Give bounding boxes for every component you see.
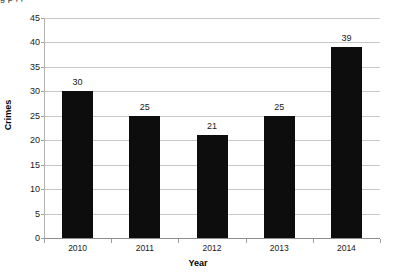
bar[interactable] (129, 116, 160, 238)
x-tick-mark (44, 239, 45, 243)
bar-value-label: 39 (326, 34, 366, 43)
gridline (44, 18, 380, 19)
x-axis-line (44, 238, 380, 239)
y-tick-label: 45 (6, 14, 40, 23)
y-tick-label: 10 (6, 185, 40, 194)
y-tick-mark (41, 165, 44, 166)
bar-value-label: 25 (125, 103, 165, 112)
bar-value-label: 25 (259, 103, 299, 112)
y-axis-title: Crimes (3, 91, 13, 139)
x-tick-mark (380, 239, 381, 243)
y-tick-label: 0 (6, 234, 40, 243)
bar[interactable] (331, 47, 362, 238)
x-tick-label: 2012 (187, 243, 237, 253)
y-tick-mark (41, 214, 44, 215)
y-tick-mark (41, 238, 44, 239)
bar-value-label: 30 (58, 78, 98, 87)
bar-chart: 454035302520151050 Crimes 3025212539 201… (0, 0, 396, 277)
y-tick-mark (41, 116, 44, 117)
y-tick-label: 15 (6, 161, 40, 170)
y-tick-mark (41, 189, 44, 190)
bar[interactable] (197, 135, 228, 238)
y-tick-label: 35 (6, 63, 40, 72)
x-tick-label: 2011 (120, 243, 170, 253)
y-tick-mark (41, 18, 44, 19)
x-tick-mark (111, 239, 112, 243)
x-tick-label: 2013 (254, 243, 304, 253)
y-tick-mark (41, 42, 44, 43)
x-tick-mark (246, 239, 247, 243)
bar-value-label: 21 (192, 122, 232, 131)
x-tick-label: 2014 (321, 243, 371, 253)
x-axis-title: Year (0, 258, 396, 269)
gridline (44, 116, 380, 117)
gridline (44, 91, 380, 92)
x-tick-mark (178, 239, 179, 243)
y-tick-mark (41, 91, 44, 92)
y-tick-mark (41, 140, 44, 141)
bar[interactable] (264, 116, 295, 238)
gridline (44, 67, 380, 68)
y-tick-mark (41, 67, 44, 68)
x-tick-mark (313, 239, 314, 243)
x-tick-label: 2010 (53, 243, 103, 253)
y-tick-label: 5 (6, 210, 40, 219)
y-tick-label: 40 (6, 38, 40, 47)
bar[interactable] (62, 91, 93, 238)
y-axis-line (44, 18, 45, 239)
